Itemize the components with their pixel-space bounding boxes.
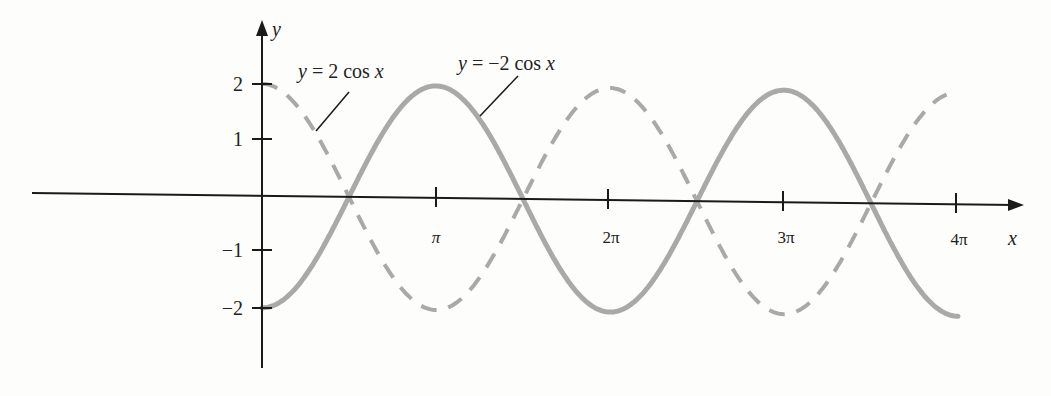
y-tick-label-1: 1 <box>233 128 243 150</box>
curve-neg-2cos <box>262 86 958 316</box>
annotation-neg2cos-text: = −2 cos <box>467 52 546 74</box>
x-tick-label-4pi: 4π <box>950 230 968 249</box>
cosine-chart: y x π 2π 3π 4π 2 1 −1 −2 y = 2 cos x y =… <box>0 0 1051 396</box>
y-tick-label-m2: −2 <box>222 297 243 319</box>
curve-pos-2cos <box>262 84 958 314</box>
y-tick-label-m1: −1 <box>222 239 243 261</box>
annotation-2cos: y = 2 cos x <box>296 60 384 83</box>
x-tick-label-3pi: 3π <box>777 228 795 247</box>
annotation-2cos-text: = 2 cos <box>307 60 375 82</box>
y-axis-label: y <box>270 18 281 41</box>
y-tick-label-2: 2 <box>233 73 243 95</box>
x-tick-label-2pi: 2π <box>602 228 620 247</box>
annotation-neg2cos: y = −2 cos x <box>456 52 555 75</box>
y-axis-arrow-icon <box>256 20 268 36</box>
x-tick-label-pi: π <box>432 228 441 247</box>
x-axis-label: x <box>1007 227 1017 249</box>
annotation-neg2cos-leader <box>480 76 518 116</box>
x-axis-arrow-icon <box>1008 199 1024 211</box>
annotation-2cos-leader <box>316 92 349 131</box>
